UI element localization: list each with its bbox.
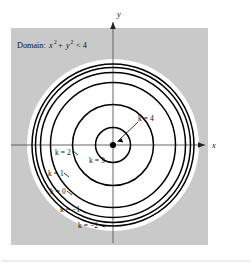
y-axis-label: y [116,10,121,19]
origin-point-marker [110,142,116,148]
contour-label-k-4: k = 4 [138,114,154,123]
contour-label-k-2: k = 2 [55,148,71,157]
contour-plot-svg: x y Domain: x 2 + y 2 < 4 k = 4 [0,0,252,266]
domain-annotation-prefix: Domain: [17,41,46,50]
domain-annotation-var-x: x [48,41,53,50]
domain-annotation-exp-y: 2 [71,39,74,45]
domain-annotation: Domain: x 2 + y 2 < 4 [17,39,87,50]
contour-label-k-3: k = 3 [89,156,105,165]
x-axis-label: x [211,141,216,150]
contour-label-k-minus-1: k = −1 [60,205,80,214]
domain-annotation-exp-x: 2 [54,39,57,45]
contour-plot-figure: x y Domain: x 2 + y 2 < 4 k = 4 [0,0,252,266]
domain-annotation-relation: < 4 [76,41,87,50]
domain-annotation-var-y: y [65,41,70,50]
contour-label-k-0: k = 0 [50,187,66,196]
contour-label-k-minus-2: k = −2 [78,221,98,230]
contour-label-k-1: k = 1 [48,169,64,178]
domain-annotation-plus: + [58,41,63,50]
